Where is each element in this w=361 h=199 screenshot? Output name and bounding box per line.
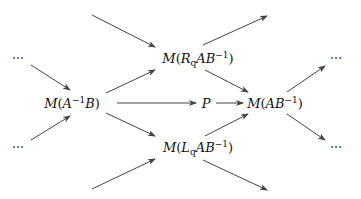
node-ellipsis-bottom-left: ⋯	[12, 141, 25, 153]
inverse-exponent: −1	[72, 95, 85, 105]
arrow-MABinv-to-dots_br	[287, 114, 325, 140]
arrow-dots_bl-to-MAinvB	[31, 116, 70, 140]
M-symbol: M	[44, 96, 57, 111]
commutative-diagram: ⋯ ⋯ M)(A−1B) M(RqAB−1) P M(LqAB−1) M(AB−…	[0, 0, 361, 199]
arrow-MAinvB-to-MRq	[106, 70, 155, 93]
arrow-MLq-to-offscreen_bottom_right	[203, 160, 267, 190]
node-ellipsis-top-right: ⋯	[330, 52, 343, 64]
node-ellipsis-top-left: ⋯	[12, 52, 25, 64]
node-M-Rq-AB-inv: M(RqAB−1)	[162, 52, 233, 65]
R-symbol: R	[181, 51, 191, 66]
inverse-exponent: −1	[215, 139, 228, 149]
node-M-Lq-AB-inv: M(LqAB−1)	[163, 141, 233, 154]
arrow-MABinv-to-dots_tr	[287, 66, 325, 92]
arrow-offscreen_bottom_left-to-MLq	[92, 159, 155, 189]
node-P: P	[202, 97, 211, 110]
L-symbol: L	[181, 140, 190, 155]
inverse-exponent: −1	[215, 50, 228, 60]
arrow-offscreen_top_left-to-MRq	[92, 15, 155, 47]
AB-symbol: AB	[266, 96, 285, 111]
AB-symbol: AB	[196, 51, 215, 66]
arrow-MAinvB-to-MLq	[106, 113, 155, 136]
arrow-MRq-to-MABinv	[205, 70, 248, 92]
A-symbol: A	[63, 96, 72, 111]
AB-symbol: AB	[196, 140, 215, 155]
arrow-MLq-to-MABinv	[205, 114, 248, 136]
node-M-AB-inv: M(AB−1)	[247, 97, 303, 110]
inverse-exponent: −1	[284, 95, 297, 105]
arrow-dots_tl-to-MAinvB	[31, 65, 70, 90]
B-symbol: B	[85, 96, 95, 111]
node-M-Ainv-B: M)(A−1B)	[44, 97, 100, 110]
arrow-MRq-to-offscreen_top_right	[203, 16, 267, 45]
node-ellipsis-bottom-right: ⋯	[330, 141, 343, 153]
